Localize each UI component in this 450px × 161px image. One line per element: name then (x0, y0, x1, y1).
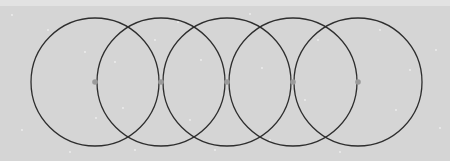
speckle (317, 39, 319, 41)
speckle (261, 67, 263, 69)
speckle (379, 29, 381, 31)
center-points-group (92, 79, 361, 85)
speckle (200, 59, 202, 61)
speckle (11, 14, 13, 16)
speckle (122, 107, 124, 109)
speckle (189, 119, 191, 121)
speckle (114, 61, 116, 63)
speckle (134, 149, 136, 151)
speckle (304, 99, 306, 101)
speckle (69, 151, 71, 153)
speckle (154, 39, 156, 41)
center-point-2 (158, 79, 164, 85)
center-point-5 (355, 79, 361, 85)
speckle (269, 139, 271, 141)
center-point-1 (92, 79, 98, 85)
speckle (214, 149, 216, 151)
center-point-3 (224, 79, 230, 85)
speckle (177, 21, 179, 23)
diagram-canvas (0, 0, 450, 161)
speckle (435, 49, 437, 51)
speckle (21, 129, 23, 131)
speckle (409, 69, 411, 71)
circle-chain-diagram (0, 0, 450, 161)
speckle (339, 151, 341, 153)
speckle (249, 13, 251, 15)
speckle (47, 29, 49, 31)
center-point-4 (290, 79, 296, 85)
speckle (84, 51, 86, 53)
speckle (395, 109, 397, 111)
speckle (95, 117, 97, 119)
speckle (439, 127, 441, 129)
